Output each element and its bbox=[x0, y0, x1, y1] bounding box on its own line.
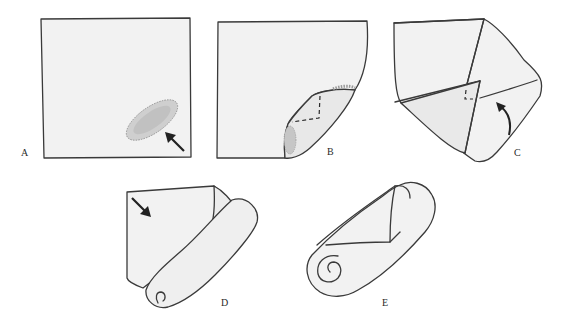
panel-label-e: E bbox=[382, 297, 388, 308]
panel-label-a: A bbox=[21, 147, 28, 158]
panel-a-illustration bbox=[41, 18, 191, 158]
panel-e-illustration bbox=[307, 182, 435, 296]
panel-label-d: D bbox=[221, 297, 228, 308]
panel-b-illustration bbox=[217, 21, 368, 158]
diagram-svg bbox=[0, 0, 573, 324]
panel-d-illustration bbox=[127, 186, 257, 308]
panel-label-b: B bbox=[327, 146, 334, 157]
panel-c-illustration bbox=[394, 19, 542, 162]
panel-label-c: C bbox=[514, 147, 521, 158]
diagram-canvas: A B C D E bbox=[0, 0, 573, 324]
